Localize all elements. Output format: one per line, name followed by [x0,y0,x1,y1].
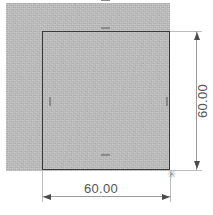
horizontal-relation-icon[interactable] [101,154,110,156]
cad-sketch-view[interactable]: 60.00 60.00 ✳ [0,0,213,215]
relation-bar [101,154,110,156]
relation-bar [49,97,51,106]
relation-bar [101,0,110,1]
horizontal-relation-icon[interactable] [101,0,110,1]
horizontal-relation-icon[interactable] [101,27,110,29]
square-profile[interactable] [42,31,170,170]
vertical-relation-icon[interactable] [166,97,168,106]
relation-bar [166,97,168,106]
dimension-line-horizontal[interactable] [42,196,171,197]
dimension-value-vertical[interactable]: 60.00 [195,84,210,118]
dimension-arrow-right [162,194,170,200]
dimension-value-horizontal[interactable]: 60.00 [84,181,118,196]
dimension-arrow-left [43,194,51,200]
dimension-arrow-down [194,161,200,169]
dimension-arrow-up [194,32,200,40]
vertical-relation-icon[interactable] [49,97,51,106]
sketch-point-icon[interactable]: ✳ [167,170,176,179]
relation-bar [101,27,110,29]
